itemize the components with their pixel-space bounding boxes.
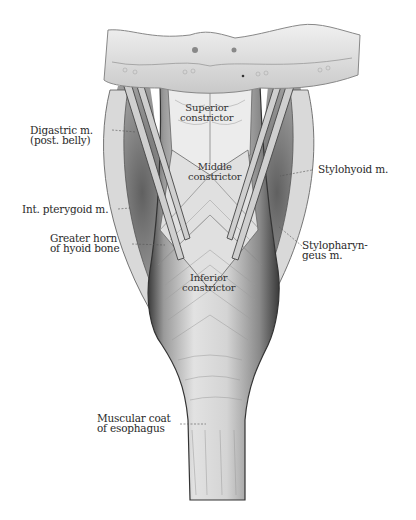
stylohyoid-label: Stylohyoid m. — [318, 164, 388, 174]
digastric-label: Digastric m. (post. belly) — [30, 125, 93, 145]
inferior-constrictor-label: Inferior constrictor — [182, 273, 235, 293]
stylopharyngeus-label: Stylopharyn- geus m. — [302, 240, 368, 260]
greater-horn-label: Greater horn of hyoid bone — [50, 233, 119, 253]
int-pterygoid-label: Int. pterygoid m. — [22, 204, 108, 214]
middle-constrictor-label: Middle constrictor — [188, 162, 241, 182]
superior-constrictor-label: Superior constrictor — [180, 103, 233, 123]
cranial-base — [104, 24, 360, 93]
esophagus-label: Muscular coat of esophagus — [97, 413, 171, 433]
pharynx-illustration — [0, 0, 416, 520]
